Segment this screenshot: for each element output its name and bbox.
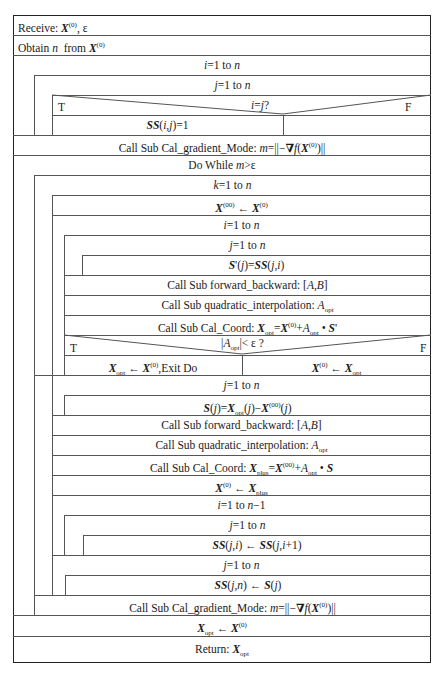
- loop-j-4: j=1 to n: [64, 515, 431, 535]
- do-while-header: Do While m>ε: [13, 155, 431, 175]
- forward-backward-call-1: Call Sub forward_backward: [A,B]: [64, 275, 431, 295]
- loop-i-2: i=1 to n: [52, 215, 431, 235]
- loop-j-2: j=1 to n: [64, 235, 431, 255]
- loop-j-5: j=1 to n: [52, 555, 431, 575]
- loop-j-1: j=1 to n: [34, 75, 431, 95]
- decision-1-true-branch: SS(i,j)=1: [52, 115, 283, 135]
- assign-s-prime: S'(j)=SS(j,i): [82, 255, 431, 275]
- shift-ss: SS(j,i) ← SS(j,i+1): [83, 535, 431, 555]
- loop-i-3: i=1 to n−1: [52, 495, 431, 515]
- loop-i-1: i=1 to n: [13, 55, 431, 75]
- assign-ss-n: SS(j,n) ← S(j): [65, 575, 431, 595]
- decision-1-false-label: F: [405, 97, 411, 117]
- return-block: Return: Xopt: [13, 639, 431, 664]
- forward-backward-call-2: Call Sub forward_backward: [A,B]: [52, 415, 431, 435]
- loop-k: k=1 to n: [34, 175, 431, 195]
- decision-1-true-label: T: [58, 97, 65, 117]
- decision-1-condition: i=j?: [230, 95, 290, 115]
- loop-j-3: j=1 to n: [52, 375, 431, 395]
